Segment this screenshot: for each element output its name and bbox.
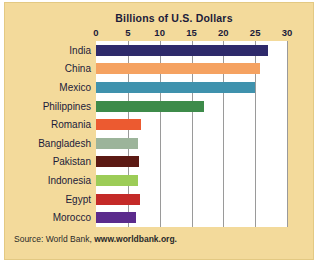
- category-label-romania: Romania: [51, 119, 91, 130]
- bars-layer: [96, 41, 287, 227]
- bar-row: [96, 156, 287, 167]
- category-label-indonesia: Indonesia: [48, 175, 91, 186]
- x-axis-tick-labels: 051015202530: [96, 27, 287, 41]
- bar-indonesia[interactable]: [96, 175, 138, 186]
- category-label-india: India: [69, 45, 91, 56]
- bar-row: [96, 175, 287, 186]
- bar-row: [96, 138, 287, 149]
- x-tick-label: 5: [125, 27, 130, 38]
- category-label-china: China: [65, 63, 91, 74]
- bar-philippines[interactable]: [96, 101, 204, 112]
- bar-china[interactable]: [96, 63, 260, 74]
- x-tick-label: 0: [93, 27, 98, 38]
- category-label-morocco: Morocco: [53, 212, 91, 223]
- bar-pakistan[interactable]: [96, 156, 139, 167]
- plot-area-wrapper: [96, 41, 287, 227]
- chart-card: Billions of U.S. Dollars 051015202530 In…: [4, 2, 314, 260]
- category-labels: IndiaChinaMexicoPhilippinesRomaniaBangla…: [5, 41, 94, 227]
- bar-bangladesh[interactable]: [96, 138, 138, 149]
- x-tick-label: 10: [154, 27, 165, 38]
- category-label-mexico: Mexico: [59, 82, 91, 93]
- bar-morocco[interactable]: [96, 212, 136, 223]
- bar-row: [96, 194, 287, 205]
- x-tick-label: 15: [186, 27, 197, 38]
- chart-title: Billions of U.S. Dollars: [5, 12, 314, 24]
- category-label-bangladesh: Bangladesh: [38, 138, 91, 149]
- x-tick-label: 20: [218, 27, 229, 38]
- category-label-philippines: Philippines: [43, 101, 91, 112]
- bar-row: [96, 101, 287, 112]
- bar-egypt[interactable]: [96, 194, 140, 205]
- bar-row: [96, 82, 287, 93]
- bar-india[interactable]: [96, 45, 268, 56]
- x-tick-label: 25: [250, 27, 261, 38]
- bar-romania[interactable]: [96, 119, 141, 130]
- source-note: Source: World Bank, www.worldbank.org.: [14, 234, 177, 244]
- bar-row: [96, 212, 287, 223]
- bar-row: [96, 45, 287, 56]
- source-prefix: Source: World Bank,: [14, 234, 94, 244]
- source-url[interactable]: www.worldbank.org.: [94, 234, 177, 244]
- bar-row: [96, 119, 287, 130]
- category-label-egypt: Egypt: [65, 194, 91, 205]
- x-tick-label: 30: [282, 27, 293, 38]
- bar-mexico[interactable]: [96, 82, 255, 93]
- category-label-pakistan: Pakistan: [53, 156, 91, 167]
- plot-area: [96, 41, 288, 227]
- bar-row: [96, 63, 287, 74]
